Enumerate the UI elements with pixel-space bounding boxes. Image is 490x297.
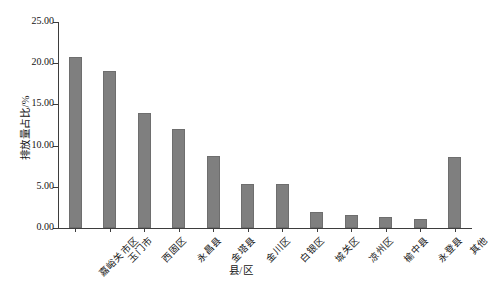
- x-tick-label: 城关区: [331, 233, 363, 265]
- bar: [276, 184, 289, 228]
- figure-caption: [0, 288, 482, 297]
- y-tick-label: 5.00: [37, 180, 55, 191]
- x-tick-mark: [455, 228, 456, 232]
- y-axis-title: 排放量占比/%: [17, 58, 32, 198]
- bar-series: [58, 22, 472, 228]
- bar: [241, 184, 254, 228]
- x-tick-mark: [282, 228, 283, 232]
- x-tick-label: 永登县: [434, 233, 466, 265]
- x-tick-label: 西固区: [158, 233, 190, 265]
- x-axis-line: [58, 228, 472, 229]
- x-tick-mark: [351, 228, 352, 232]
- x-tick-mark: [75, 228, 76, 232]
- bar: [69, 57, 82, 228]
- x-tick-mark: [386, 228, 387, 232]
- bar: [103, 71, 116, 228]
- x-tick-mark: [144, 228, 145, 232]
- y-tick-label: 25.00: [32, 15, 55, 26]
- y-tick-label: 15.00: [32, 97, 55, 108]
- bar: [379, 217, 392, 228]
- x-tick-mark: [420, 228, 421, 232]
- x-tick-label: 永昌县: [193, 233, 225, 265]
- bar: [207, 156, 220, 228]
- x-axis-title: 县/区: [0, 262, 482, 277]
- x-tick-label: 其他: [466, 233, 490, 257]
- x-tick-mark: [110, 228, 111, 232]
- x-tick-label: 金塔县: [227, 233, 259, 265]
- y-tick-label: 0.00: [37, 221, 55, 232]
- x-tick-mark: [179, 228, 180, 232]
- x-tick-label: 凉州区: [365, 233, 397, 265]
- plot-area: 0.005.0010.0015.0020.0025.00 嘉峪关市区玉门市西固区…: [58, 22, 472, 228]
- y-tick-label: 20.00: [32, 56, 55, 67]
- x-tick-label: 金川区: [262, 233, 294, 265]
- bar: [345, 215, 358, 228]
- x-tick-label: 榆中县: [400, 233, 432, 265]
- bar: [448, 157, 461, 228]
- y-tick-label: 10.00: [32, 139, 55, 150]
- x-tick-mark: [317, 228, 318, 232]
- bar: [310, 212, 323, 228]
- x-tick-mark: [213, 228, 214, 232]
- x-tick-label: 白银区: [296, 233, 328, 265]
- bar: [138, 113, 151, 228]
- bar: [172, 129, 185, 228]
- bar: [414, 219, 427, 228]
- x-tick-mark: [248, 228, 249, 232]
